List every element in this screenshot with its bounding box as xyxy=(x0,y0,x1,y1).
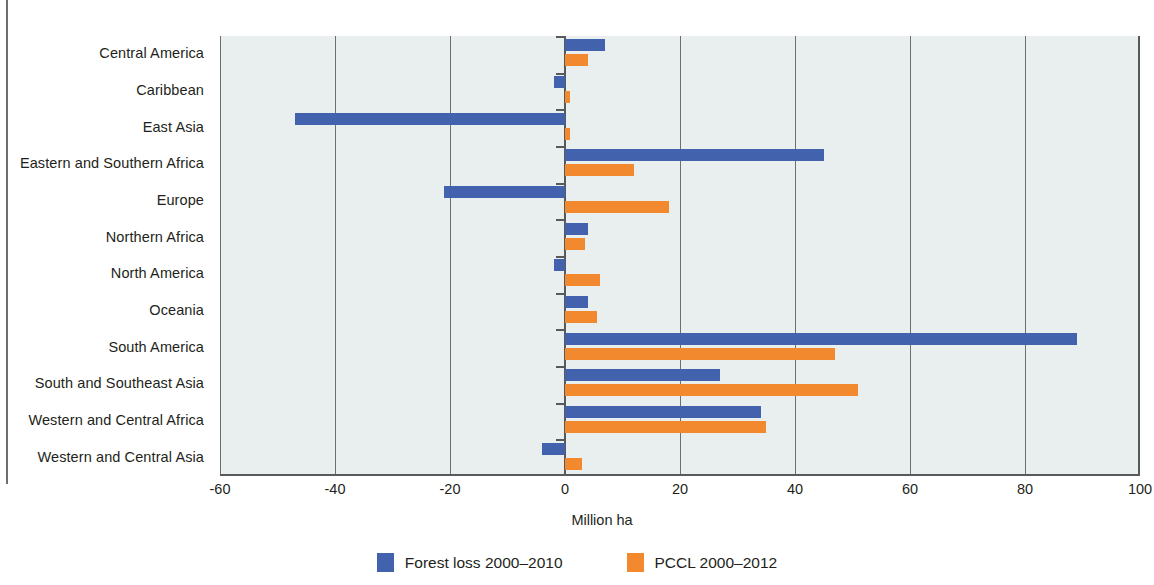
category-tick xyxy=(556,439,565,441)
bar-forest-loss xyxy=(554,259,566,271)
bar-forest-loss xyxy=(554,76,566,88)
category-label: Europe xyxy=(157,192,204,208)
bar-pccl xyxy=(565,54,588,66)
bar-row xyxy=(220,109,1138,146)
category-tick xyxy=(556,329,565,331)
category-label: East Asia xyxy=(143,119,204,135)
bar-row xyxy=(220,403,1138,440)
bar-pccl xyxy=(565,274,600,286)
bar-pccl xyxy=(565,201,669,213)
category-tick xyxy=(556,109,565,111)
x-tick-label: 60 xyxy=(902,481,918,497)
bar-forest-loss xyxy=(565,296,588,308)
category-label: Oceania xyxy=(149,302,204,318)
category-tick xyxy=(556,219,565,221)
bar-forest-loss xyxy=(565,149,824,161)
category-axis-labels: Central AmericaCaribbeanEast AsiaEastern… xyxy=(0,36,212,476)
legend-item: PCCL 2000–2012 xyxy=(627,553,778,572)
plot-area xyxy=(220,36,1140,476)
category-tick xyxy=(556,36,565,38)
category-tick xyxy=(556,366,565,368)
category-tick xyxy=(556,73,565,75)
bar-pccl xyxy=(565,384,858,396)
category-tick xyxy=(556,146,565,148)
bar-row xyxy=(220,293,1138,330)
bar-row xyxy=(220,219,1138,256)
bar-pccl xyxy=(565,311,597,323)
category-label: Caribbean xyxy=(136,82,204,98)
bar-forest-loss xyxy=(565,333,1077,345)
bar-pccl xyxy=(565,238,585,250)
x-tick-label: -60 xyxy=(210,481,231,497)
x-tick-label: -40 xyxy=(325,481,346,497)
category-label: Eastern and Southern Africa xyxy=(20,155,204,171)
chart-legend: Forest loss 2000–2010PCCL 2000–2012 xyxy=(0,553,1154,572)
category-label: Northern Africa xyxy=(106,229,204,245)
bar-forest-loss xyxy=(565,39,605,51)
bar-forest-loss xyxy=(565,369,720,381)
category-tick xyxy=(556,256,565,258)
legend-item: Forest loss 2000–2010 xyxy=(377,553,563,572)
x-axis-tick-labels: -60-40-20020406080100 xyxy=(220,481,1140,505)
category-tick xyxy=(556,183,565,185)
bar-rows xyxy=(220,36,1138,474)
bar-pccl xyxy=(565,348,835,360)
category-tick xyxy=(556,403,565,405)
x-tick-label: 0 xyxy=(561,481,569,497)
bar-row xyxy=(220,146,1138,183)
bar-pccl xyxy=(565,164,634,176)
bar-forest-loss xyxy=(444,186,565,198)
bar-forest-loss xyxy=(565,223,588,235)
bar-row xyxy=(220,73,1138,110)
bar-row xyxy=(220,256,1138,293)
bar-forest-loss xyxy=(565,406,761,418)
bar-row xyxy=(220,329,1138,366)
category-label: North America xyxy=(111,265,204,281)
chart-figure: Central AmericaCaribbeanEast AsiaEastern… xyxy=(0,0,1154,585)
x-tick-label: 100 xyxy=(1128,481,1152,497)
x-tick-label: 40 xyxy=(787,481,803,497)
x-axis-title: Million ha xyxy=(0,512,1154,528)
bar-row xyxy=(220,439,1138,476)
bar-forest-loss xyxy=(542,443,565,455)
bar-row xyxy=(220,183,1138,220)
category-label: Central America xyxy=(99,45,204,61)
x-tick-label: 80 xyxy=(1017,481,1033,497)
x-axis-title-text: Million ha xyxy=(571,512,632,528)
legend-swatch xyxy=(627,553,644,572)
bar-pccl xyxy=(565,458,582,470)
bar-pccl xyxy=(565,128,570,140)
legend-label: PCCL 2000–2012 xyxy=(655,554,778,572)
bar-row xyxy=(220,36,1138,73)
legend-swatch xyxy=(377,553,394,572)
bar-pccl xyxy=(565,421,766,433)
legend-label: Forest loss 2000–2010 xyxy=(405,554,563,572)
category-label: Western and Central Asia xyxy=(37,449,204,465)
category-label: South America xyxy=(108,339,204,355)
category-label: South and Southeast Asia xyxy=(35,375,204,391)
category-label: Western and Central Africa xyxy=(28,412,204,428)
bar-row xyxy=(220,366,1138,403)
bar-forest-loss xyxy=(295,113,565,125)
x-tick-label: 20 xyxy=(672,481,688,497)
category-tick xyxy=(556,293,565,295)
x-tick-label: -20 xyxy=(440,481,461,497)
bar-pccl xyxy=(565,91,570,103)
